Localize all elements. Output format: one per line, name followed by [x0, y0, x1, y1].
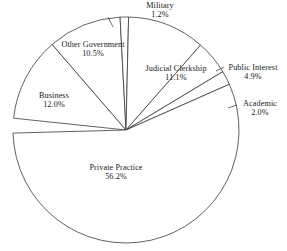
pie-label-other-government-value: 10.5% — [40, 50, 146, 59]
pie-label-judicial-clerkship-value: 11.1% — [133, 74, 219, 83]
pie-label-academic-value: 2.0% — [233, 109, 287, 118]
pie-label-military-value: 1.2% — [124, 11, 196, 20]
pie-label-other-government: Other Government 10.5% — [40, 41, 146, 58]
pie-label-private-practice: Private Practice 56.2% — [76, 164, 156, 181]
pie-label-academic: Academic 2.0% — [233, 100, 287, 117]
pie-label-public-interest-value: 4.9% — [221, 73, 285, 82]
pie-chart-graphic — [0, 0, 287, 251]
pie-label-public-interest: Public Interest 4.9% — [221, 64, 285, 81]
pie-label-business: Business 12.0% — [24, 92, 84, 109]
pie-label-private-practice-value: 56.2% — [76, 173, 156, 182]
pie-label-business-value: 12.0% — [24, 101, 84, 110]
pie-chart: Military 1.2% Other Government 10.5% Jud… — [0, 0, 287, 251]
pie-label-judicial-clerkship: Judicial Clerkship 11.1% — [133, 65, 219, 82]
pie-label-military: Military 1.2% — [124, 2, 196, 19]
